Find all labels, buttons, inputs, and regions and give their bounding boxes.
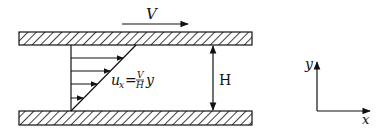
velocity-label: V xyxy=(146,5,159,23)
top-plate xyxy=(19,32,252,45)
svg-text:V: V xyxy=(137,70,145,80)
svg-text:H: H xyxy=(135,80,144,90)
x-axis-label: x xyxy=(362,112,370,127)
gap-height-dimension: H xyxy=(213,46,231,110)
profile-equation: u x = V H y xyxy=(111,70,155,90)
y-axis-label: y xyxy=(304,56,314,72)
gap-label: H xyxy=(219,72,231,88)
plate-velocity-arrow: V xyxy=(122,5,188,24)
couette-flow-diagram: V u x = V H y H y x xyxy=(0,0,389,133)
svg-text:=: = xyxy=(125,72,137,88)
svg-text:y: y xyxy=(145,72,155,88)
svg-text:x: x xyxy=(119,80,124,90)
bottom-plate xyxy=(19,111,252,125)
coordinate-axes: y x xyxy=(304,56,370,127)
